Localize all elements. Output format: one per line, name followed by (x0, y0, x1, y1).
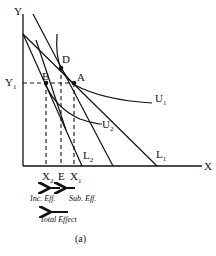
l2-label: L2 (83, 149, 94, 164)
indifference-curve-u1 (57, 34, 152, 103)
point-b-label: B (42, 70, 49, 82)
x-axis-label: X (204, 160, 212, 172)
income-effect-label: Inc. Eff. (29, 194, 56, 203)
budget-line-l2 (23, 34, 82, 166)
budget-line-l1 (23, 34, 157, 166)
compensated-budget-line (33, 14, 113, 166)
x1-label: X1 (70, 170, 82, 185)
figure-caption: (a) (75, 233, 86, 245)
substitution-effect-label: Sub. Eff. (69, 194, 96, 203)
u1-label: U1 (155, 92, 167, 107)
l1-label: L1 (156, 148, 167, 163)
point-d-label: D (62, 53, 70, 65)
point-a-label: A (77, 71, 85, 83)
price-effect-diagram: Y X A B D Y1 U1 U2 L1 L2 X2 E X1 Inc. Ef… (0, 0, 216, 256)
x2-label: X2 (42, 170, 54, 185)
e-label: E (58, 170, 65, 182)
point-d (59, 66, 64, 71)
point-a (72, 81, 77, 86)
u2-label: U2 (102, 118, 114, 133)
y1-label: Y1 (5, 76, 17, 91)
y-axis-label: Y (14, 5, 22, 17)
total-effect-label: Total Effect (40, 215, 78, 224)
